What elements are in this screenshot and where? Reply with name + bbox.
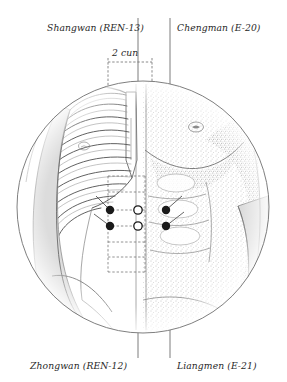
anatomy-figure: [0, 0, 287, 382]
label-liangmen: Liangmen (E-21): [177, 360, 257, 371]
label-cun-measure: 2 cun: [112, 47, 138, 58]
label-chengman: Chengman (E-20): [177, 22, 261, 33]
circle-rim-fade: [17, 81, 269, 333]
label-zhongwan: Zhongwan (REN-12): [30, 360, 127, 371]
label-shangwan: Shangwan (REN-13): [47, 22, 144, 33]
circle-illustration: [17, 81, 269, 334]
